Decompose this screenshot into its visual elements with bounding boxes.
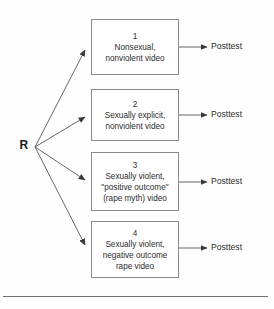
condition-box-1: 1 Nonsexual, nonviolent video <box>91 19 179 75</box>
condition-number-1: 1 <box>133 31 138 42</box>
condition-text-3-line-1: Sexually violent, <box>105 171 164 182</box>
arrow-r-to-group-2 <box>35 117 85 147</box>
condition-text-2-line-1: Sexually explicit, <box>105 110 166 121</box>
condition-text-3-line-2: "positive outcome" <box>101 182 168 193</box>
condition-text-4-line-2: negative outcome <box>103 250 168 261</box>
posttest-label-4: Posttest <box>211 242 242 252</box>
experimental-design-diagram: R 1 Nonsexual, nonviolent video 2 Sexual… <box>0 0 274 309</box>
condition-text-3-line-3: (rape myth) video <box>103 193 167 204</box>
randomization-label: R <box>16 138 32 152</box>
posttest-label-1: Posttest <box>211 41 242 51</box>
condition-text-2-line-2: nonviolent video <box>105 121 164 132</box>
condition-text-1-line-2: nonviolent video <box>105 53 164 64</box>
condition-text-1-line-1: Nonsexual, <box>115 42 156 53</box>
arrow-r-to-group-3 <box>35 147 85 180</box>
condition-box-3: 3 Sexually violent, "positive outcome" (… <box>91 152 179 211</box>
randomization-arrows <box>35 50 85 245</box>
posttest-arrows <box>179 47 207 248</box>
posttest-label-3: Posttest <box>211 176 242 186</box>
condition-number-3: 3 <box>133 160 138 171</box>
condition-text-4-line-3: rape video <box>116 261 154 272</box>
posttest-label-2: Posttest <box>211 109 242 119</box>
arrow-r-to-group-4 <box>35 147 85 245</box>
condition-box-4: 4 Sexually violent, negative outcome rap… <box>91 221 179 278</box>
condition-box-2: 2 Sexually explicit, nonviolent video <box>91 89 179 141</box>
condition-number-4: 4 <box>133 228 138 239</box>
condition-number-2: 2 <box>133 99 138 110</box>
footer-divider <box>3 296 268 297</box>
condition-text-4-line-1: Sexually violent, <box>105 239 164 250</box>
arrow-r-to-group-1 <box>35 50 85 147</box>
